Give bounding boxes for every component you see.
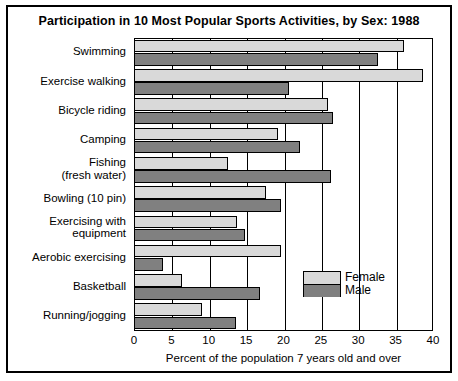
category-label-exercise-walking: Exercise walking [0, 75, 126, 88]
bar-male-exercise-walking [134, 82, 289, 95]
category-label-running-jogging: Running/jogging [0, 309, 126, 322]
category-label-line: Swimming [0, 45, 126, 58]
category-label-aerobic-exercising: Aerobic exercising [0, 251, 126, 264]
bar-female-basketball [134, 274, 182, 287]
category-label-line: Running/jogging [0, 309, 126, 322]
category-label-line: (fresh water) [0, 169, 126, 182]
chart-legend: Female Male [303, 271, 393, 299]
bar-female-swimming [134, 40, 404, 53]
x-tick-5: 5 [168, 334, 174, 346]
legend-swatch-box [303, 271, 341, 297]
legend-label-female: Female [345, 270, 385, 284]
category-label-line: Fishing [0, 156, 126, 169]
category-label-exercising-with-equipment: Exercising withequipment [0, 215, 126, 240]
bar-female-exercise-walking [134, 69, 423, 82]
bar-female-bicycle-riding [134, 98, 328, 111]
bar-female-running-jogging [134, 303, 202, 316]
bar-male-bicycle-riding [134, 112, 333, 125]
bar-male-bowling-10-pin [134, 199, 281, 212]
category-label-line: Exercise walking [0, 75, 126, 88]
x-axis-tick-labels: 0510152025303540 [0, 334, 458, 352]
category-label-swimming: Swimming [0, 45, 126, 58]
page-title: Participation in 10 Most Popular Sports … [0, 14, 458, 28]
x-tick-0: 0 [131, 334, 137, 346]
x-tick-10: 10 [202, 334, 215, 346]
bar-female-bowling-10-pin [134, 186, 266, 199]
x-tick-20: 20 [277, 334, 290, 346]
category-label-camping: Camping [0, 133, 126, 146]
bar-male-running-jogging [134, 317, 236, 330]
bar-female-exercising-with-equipment [134, 216, 237, 229]
bar-female-fishing-fresh-water [134, 157, 228, 170]
x-tick-25: 25 [314, 334, 327, 346]
legend-swatch-male [304, 284, 340, 297]
bar-female-camping [134, 128, 278, 141]
bar-male-fishing-fresh-water [134, 170, 331, 183]
legend-label-male: Male [345, 283, 371, 297]
category-label-bowling-10-pin: Bowling (10 pin) [0, 192, 126, 205]
bar-female-aerobic-exercising [134, 245, 281, 258]
category-label-basketball: Basketball [0, 280, 126, 293]
bar-male-exercising-with-equipment [134, 229, 245, 242]
bar-male-basketball [134, 287, 260, 300]
x-tick-35: 35 [389, 334, 402, 346]
chart-screenshot: Participation in 10 Most Popular Sports … [0, 0, 458, 381]
category-label-line: Bicycle riding [0, 104, 126, 117]
category-label-line: equipment [0, 227, 126, 240]
category-label-fishing-fresh-water: Fishing(fresh water) [0, 156, 126, 181]
bar-male-swimming [134, 53, 378, 66]
category-label-line: Basketball [0, 280, 126, 293]
x-axis-title: Percent of the population 7 years old an… [134, 352, 433, 364]
x-tick-30: 30 [352, 334, 365, 346]
category-label-line: Aerobic exercising [0, 251, 126, 264]
bar-male-aerobic-exercising [134, 258, 163, 271]
x-tick-40: 40 [427, 334, 440, 346]
category-label-line: Camping [0, 133, 126, 146]
category-label-bicycle-riding: Bicycle riding [0, 104, 126, 117]
y-axis-category-labels: SwimmingExercise walkingBicycle ridingCa… [0, 38, 130, 331]
category-label-line: Exercising with [0, 215, 126, 228]
x-tick-15: 15 [240, 334, 253, 346]
category-label-line: Bowling (10 pin) [0, 192, 126, 205]
bar-male-camping [134, 141, 300, 154]
legend-swatch-female [304, 272, 340, 284]
